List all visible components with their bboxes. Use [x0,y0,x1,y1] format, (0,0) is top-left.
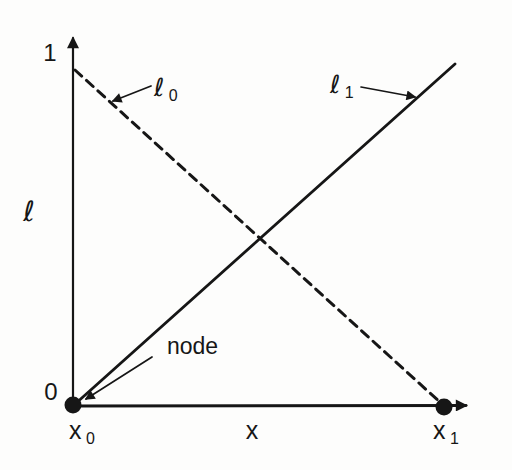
figure-canvas: 1 0 ℓ ℓ 0 ℓ 1 node x 0 x 1 x [0,0,512,470]
y-tick-label-0: 0 [44,378,57,405]
x0-node-label: x 0 [69,416,95,447]
x1-label-subscript: 1 [450,430,459,447]
l0-label-subscript: 0 [169,87,178,104]
x-axis-line-with-arrow [71,406,466,407]
y-tick-label-1: 1 [43,39,56,66]
x1-label-base: x [433,416,446,444]
l1-solid-line [74,64,455,405]
node-annotation-label: node [167,333,218,359]
y-axis-label: ℓ [22,195,35,228]
x0-label-subscript: 0 [86,430,95,447]
l1-label-base: ℓ [329,70,340,99]
l1-curve-label: ℓ 1 [329,70,354,101]
node-dot-x1 [436,399,453,416]
l0-pointer-arrow-icon [113,86,151,101]
l1-label-subscript: 1 [345,84,354,101]
l1-pointer-arrow-icon [361,87,415,97]
x1-node-label: x 1 [433,416,459,447]
l0-curve-label: ℓ 0 [153,73,178,104]
node-dot-x0 [65,397,82,414]
l0-label-base: ℓ [153,73,164,102]
x0-label-base: x [69,416,82,444]
shape-function-figure: 1 0 ℓ ℓ 0 ℓ 1 node x 0 x 1 x [0,0,512,470]
x-axis-label: x [246,416,259,444]
